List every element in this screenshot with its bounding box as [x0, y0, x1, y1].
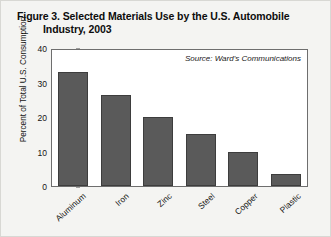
y-axis-title: Percent of Total U.S. Consumption	[19, 7, 28, 152]
y-axis-tick-label: 30	[29, 79, 47, 89]
bar	[228, 152, 258, 187]
bar	[143, 117, 173, 186]
x-axis-tick-label-text: Copper	[232, 191, 259, 217]
x-axis-tick-label-text: Aluminum	[54, 191, 88, 223]
x-axis-tick-label-text: Iron	[114, 191, 131, 208]
y-axis-ticks: 010203040	[29, 44, 47, 190]
y-axis-tick-label: 10	[29, 148, 47, 158]
title-line-2: Industry, 2003	[17, 23, 317, 36]
plot-area: Source: Ward's Communications	[51, 49, 308, 187]
y-axis-tick-label: 20	[29, 113, 47, 123]
bar	[186, 134, 216, 186]
bar	[58, 72, 88, 186]
y-axis-tick-label: 0	[29, 182, 47, 192]
figure-title: Figure 3. Selected Materials Use by the …	[17, 10, 317, 36]
x-axis-tick-label-text: Zinc	[155, 191, 173, 209]
x-axis-tick-label-text: Plastic	[277, 191, 302, 215]
y-axis-tick-label: 40	[29, 44, 47, 54]
x-axis-labels: AluminumIronZincSteelCopperPlastic	[51, 187, 308, 233]
x-axis-tick-label-text: Steel	[196, 191, 217, 211]
figure-container: Figure 3. Selected Materials Use by the …	[0, 0, 331, 237]
title-line-1: Figure 3. Selected Materials Use by the …	[17, 10, 317, 23]
bar-series	[52, 50, 307, 186]
